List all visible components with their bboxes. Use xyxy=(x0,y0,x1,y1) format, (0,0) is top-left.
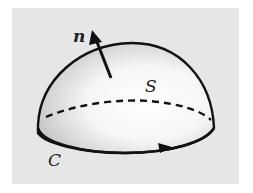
hemisphere-diagram: n S C xyxy=(0,0,253,193)
normal-arrowhead-icon xyxy=(89,30,102,45)
label-curve: C xyxy=(48,150,61,170)
hemisphere-surface xyxy=(38,43,214,153)
label-surface: S xyxy=(145,76,157,96)
label-normal: n xyxy=(73,26,85,46)
